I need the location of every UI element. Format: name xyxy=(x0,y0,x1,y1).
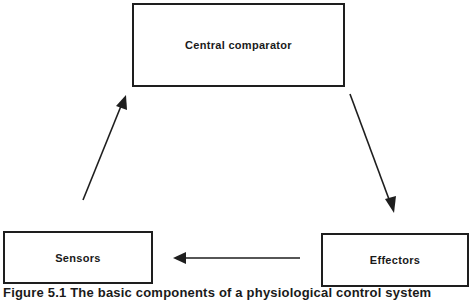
arrow-central-to-effectors xyxy=(350,94,396,213)
arrow-sensors-to-central xyxy=(83,95,127,200)
arrow-effectors-to-sensors xyxy=(173,252,300,264)
figure-caption: Figure 5.1 The basic components of a phy… xyxy=(3,285,431,300)
